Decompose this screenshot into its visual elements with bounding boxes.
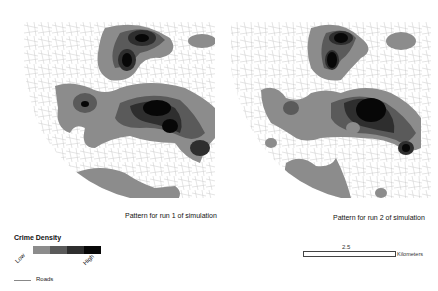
map-run-1-graphic	[10, 8, 220, 198]
legend-class-3-swatch	[67, 246, 84, 254]
crime-density-map-run-1	[10, 8, 220, 198]
roads-legend-label: Roads	[36, 276, 53, 282]
legend-low-label: Low	[14, 252, 26, 264]
roads-legend-line-icon	[14, 280, 31, 281]
legend-class-1-swatch	[33, 246, 50, 254]
map-caption-run-2: Pattern for run 2 of simulation	[333, 214, 425, 221]
scale-bar-value: 2.5	[342, 244, 350, 250]
legend-class-4-swatch	[84, 246, 101, 254]
legend-class-2-swatch	[50, 246, 67, 254]
legend-title: Crime Density	[14, 234, 61, 241]
scale-bar	[303, 251, 396, 257]
map-run-2-graphic	[226, 8, 436, 198]
legend-high-label: High	[82, 253, 95, 266]
scale-bar-unit: Kilometers	[397, 251, 423, 257]
crime-density-map-run-2	[226, 8, 436, 198]
map-caption-run-1: Pattern for run 1 of simulation	[125, 212, 217, 219]
density-low-island	[346, 122, 360, 134]
